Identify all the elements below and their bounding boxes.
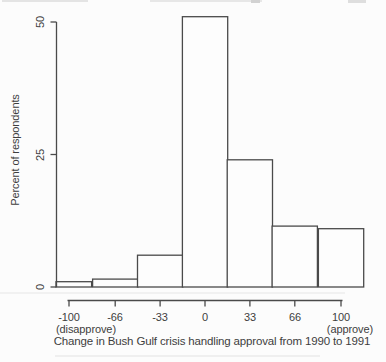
histogram-bar	[182, 17, 227, 287]
chart-canvas	[0, 0, 386, 362]
histogram-figure: 02550-100-66-3303366100 Percent of respo…	[0, 0, 386, 362]
x-tick-label: 0	[183, 311, 227, 323]
x-tick-label: 66	[273, 311, 317, 323]
x-tick-label: -66	[93, 311, 137, 323]
y-tick-label: 25	[34, 149, 46, 161]
x-tick-label: 33	[228, 311, 272, 323]
histogram-bar	[138, 255, 183, 287]
histogram-bar	[318, 229, 363, 287]
histogram-bar	[56, 282, 92, 287]
histogram-bar	[227, 160, 272, 287]
y-tick-label: 0	[34, 284, 46, 290]
y-tick-label: 50	[34, 16, 46, 28]
x-axis-title: Change in Bush Gulf crisis handling appr…	[38, 335, 386, 348]
x-tick-label: -33	[138, 311, 182, 323]
x-axis-right-annotation: (approve)	[327, 323, 373, 335]
histogram-bar	[93, 279, 138, 287]
x-tick-label: 100	[319, 311, 363, 323]
histogram-bar	[272, 226, 317, 287]
x-tick-label: -100	[47, 311, 91, 323]
y-axis-title: Percent of respondents	[9, 94, 21, 206]
x-axis-left-annotation: (disapprove)	[56, 323, 116, 335]
